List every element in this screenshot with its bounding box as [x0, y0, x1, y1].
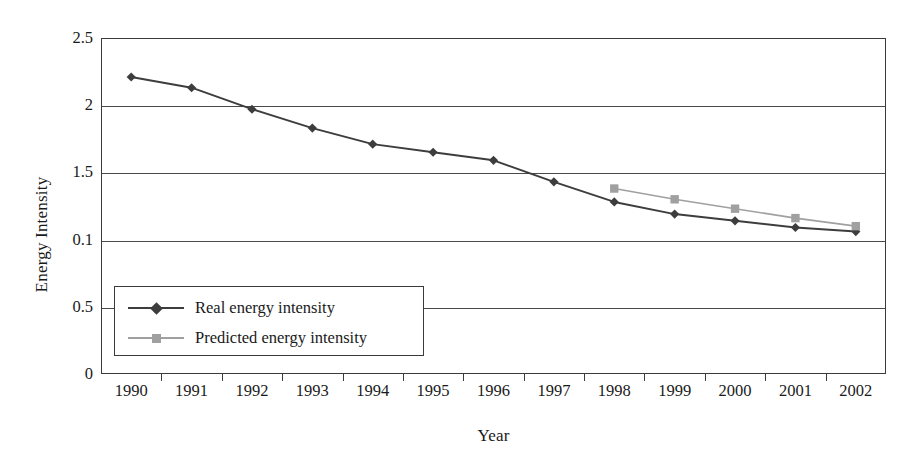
- x-axis-tick-mark: [343, 374, 344, 381]
- x-axis-tick-label: 1991: [175, 383, 208, 400]
- x-axis-tick-label: 2000: [719, 383, 752, 400]
- diamond-marker-icon: [247, 105, 256, 114]
- diamond-marker-icon: [308, 123, 317, 132]
- diamond-marker-icon: [730, 216, 739, 225]
- y-axis-tick-label: 2: [37, 97, 93, 114]
- legend-swatch-predicted: [128, 331, 184, 345]
- diamond-marker-icon: [150, 302, 163, 315]
- legend-item-real: Real energy intensity: [115, 293, 423, 323]
- chart-legend: Real energy intensity Predicted energy i…: [114, 286, 424, 356]
- x-axis-tick-label: 1990: [115, 383, 148, 400]
- x-axis-tick-label: 1994: [356, 383, 389, 400]
- y-axis-tick-label: 1.5: [37, 164, 93, 181]
- diamond-marker-icon: [610, 197, 619, 206]
- x-axis-tick-mark: [403, 374, 404, 381]
- square-marker-icon: [731, 204, 739, 212]
- series-line: [131, 77, 856, 232]
- x-axis-tick-label: 1997: [537, 383, 570, 400]
- diamond-marker-icon: [791, 223, 800, 232]
- x-axis-tick-mark: [282, 374, 283, 381]
- square-marker-icon: [610, 184, 618, 192]
- x-axis-tick-label: 2002: [839, 383, 872, 400]
- diamond-marker-icon: [429, 148, 438, 157]
- diamond-marker-icon: [549, 177, 558, 186]
- legend-item-predicted: Predicted energy intensity: [115, 323, 423, 353]
- square-marker-icon: [791, 214, 799, 222]
- diamond-marker-icon: [489, 156, 498, 165]
- x-axis-tick-label: 1998: [598, 383, 631, 400]
- x-axis-tick-label: 1996: [477, 383, 510, 400]
- x-axis: 1990199119921993199419951996199719981999…: [101, 374, 886, 414]
- legend-swatch-real: [128, 301, 184, 315]
- diamond-marker-icon: [187, 83, 196, 92]
- legend-label-real: Real energy intensity: [195, 300, 335, 317]
- x-axis-tick-mark: [644, 374, 645, 381]
- x-axis-title: Year: [101, 424, 886, 448]
- x-axis-tick-mark: [705, 374, 706, 381]
- x-axis-tick-label: 1999: [658, 383, 691, 400]
- x-axis-tick-mark: [584, 374, 585, 381]
- x-axis-tick-label: 1993: [296, 383, 329, 400]
- y-axis-tick-label: 0: [37, 366, 93, 383]
- square-marker-icon: [670, 195, 678, 203]
- x-axis-tick-mark: [765, 374, 766, 381]
- diamond-marker-icon: [670, 209, 679, 218]
- x-axis-tick-label: 1992: [235, 383, 268, 400]
- diamond-marker-icon: [127, 72, 136, 81]
- square-marker-icon: [152, 334, 161, 343]
- x-axis-tick-mark: [222, 374, 223, 381]
- diamond-marker-icon: [368, 140, 377, 149]
- x-axis-tick-mark: [524, 374, 525, 381]
- x-axis-tick-mark: [826, 374, 827, 381]
- x-axis-tick-label: 1995: [417, 383, 450, 400]
- x-axis-tick-mark: [161, 374, 162, 381]
- legend-label-predicted: Predicted energy intensity: [195, 330, 367, 347]
- y-axis-tick-label: 0.1: [37, 231, 93, 248]
- x-axis-tick-mark: [463, 374, 464, 381]
- y-axis-tick-label: 0.5: [37, 299, 93, 316]
- x-axis-tick-label: 2001: [779, 383, 812, 400]
- chart-figure: Energy Intensity 2.521.50.10.50 Real ene…: [0, 0, 923, 469]
- square-marker-icon: [852, 222, 860, 230]
- y-axis-tick-label: 2.5: [37, 30, 93, 47]
